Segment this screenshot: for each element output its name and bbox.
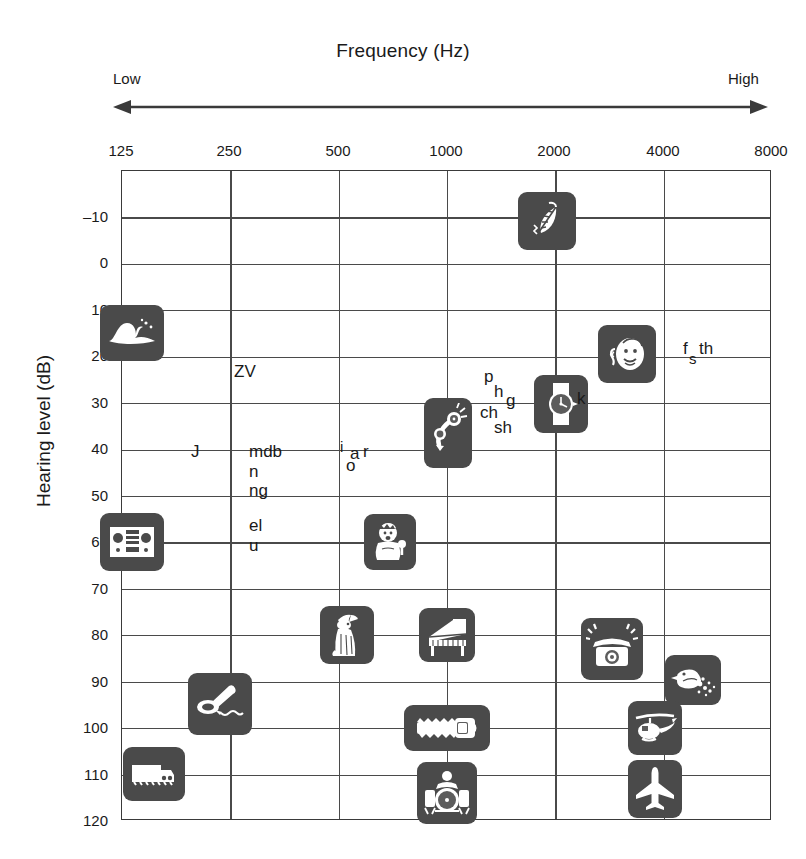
ytick-110: 110: [0, 766, 108, 783]
gridline-horizontal-60: [122, 542, 770, 543]
dog-icon: [320, 606, 374, 664]
phoneme-el-text: el: [249, 516, 262, 536]
audiogram-figure: Frequency (Hz) Low High 125 250 500 1000…: [0, 0, 806, 859]
xtick-250: 250: [216, 142, 241, 159]
phoneme-sh-text: sh: [494, 418, 512, 437]
phoneme-o-text: o: [346, 456, 355, 475]
phoneme-p: p: [484, 368, 493, 385]
gridline-horizontal-minus10: [122, 217, 770, 218]
chainsaw-icon: [404, 705, 490, 751]
gridline-horizontal-20: [122, 357, 770, 358]
phoneme-ng-text: ng: [249, 481, 282, 501]
power-saw-icon: [188, 673, 252, 735]
frequency-direction-arrow-icon: [113, 98, 768, 116]
xtick-4000: 4000: [646, 142, 679, 159]
ytick-80: 80: [0, 626, 108, 643]
ytick-100: 100: [0, 719, 108, 736]
hearing-level-axis-title: Hearing level (dB): [33, 231, 55, 631]
airplane-icon: [628, 760, 682, 818]
phone-ring-icon: [581, 618, 643, 680]
wave-icon: [100, 305, 164, 361]
phoneme-o: o: [346, 457, 355, 474]
ytick-120: 120: [0, 812, 108, 829]
phoneme-k: k: [577, 390, 586, 407]
telephone-bell-icon: [424, 398, 472, 468]
plot-area: ZV J mdb n ng el u i a r o p: [121, 170, 771, 820]
stereo-icon: [100, 513, 164, 571]
helicopter-icon: [628, 701, 682, 755]
ytick-0: 0: [0, 254, 108, 271]
ytick-40: 40: [0, 440, 108, 457]
gridline-horizontal-50: [122, 496, 770, 497]
high-frequency-label: High: [728, 70, 759, 87]
phoneme-th: th: [699, 340, 713, 357]
low-frequency-label: Low: [113, 70, 141, 87]
ytick-20: 20: [0, 347, 108, 364]
gridline-horizontal-0: [122, 264, 770, 265]
baby-icon: [364, 514, 416, 570]
drums-icon: [417, 762, 477, 824]
face-ear-icon: [598, 325, 656, 383]
gridline-horizontal-10: [122, 310, 770, 311]
xtick-2000: 2000: [537, 142, 570, 159]
phoneme-p-text: p: [484, 367, 493, 386]
phoneme-h-text: h: [494, 382, 503, 401]
phoneme-k-text: k: [577, 389, 586, 408]
gridline-horizontal-70: [122, 589, 770, 590]
frequency-axis-title: Frequency (Hz): [0, 40, 806, 62]
phoneme-i: i: [340, 439, 343, 454]
ytick-50: 50: [0, 487, 108, 504]
truck-icon: [123, 747, 185, 801]
phoneme-zv-text: ZV: [234, 362, 256, 381]
phoneme-column-low2: el u: [249, 516, 262, 555]
phoneme-sh: sh: [494, 419, 512, 436]
piano-icon: [419, 608, 475, 662]
ytick-70: 70: [0, 580, 108, 597]
xtick-1000: 1000: [429, 142, 462, 159]
ytick-10: 10: [0, 301, 108, 318]
phoneme-i-text: i: [340, 438, 343, 455]
phoneme-j: J: [191, 443, 200, 460]
phoneme-j-text: J: [191, 442, 200, 461]
gridline-vertical-2000: [555, 171, 556, 819]
phoneme-mdb-text: mdb: [249, 442, 282, 462]
phoneme-s-text: s: [689, 350, 697, 367]
ytick-minus10: –10: [0, 208, 108, 225]
leaf-icon: [518, 192, 576, 250]
xtick-8000: 8000: [754, 142, 787, 159]
ytick-60: 60: [0, 533, 108, 550]
ytick-30: 30: [0, 394, 108, 411]
phoneme-g-text: g: [506, 391, 515, 410]
phoneme-th-text: th: [699, 339, 713, 358]
phoneme-f: f: [683, 340, 688, 357]
bird-icon: [665, 655, 721, 705]
gridline-vertical-500: [339, 171, 340, 819]
phoneme-g: g: [506, 392, 515, 409]
phoneme-u-text: u: [249, 536, 262, 556]
phoneme-r: r: [363, 443, 369, 460]
phoneme-f-text: f: [683, 339, 688, 358]
phoneme-column-low: mdb n ng: [249, 442, 282, 501]
xtick-500: 500: [325, 142, 350, 159]
ytick-90: 90: [0, 673, 108, 690]
phoneme-h: h: [494, 383, 503, 400]
xtick-125: 125: [108, 142, 133, 159]
phoneme-s: s: [689, 351, 697, 366]
phoneme-zv: ZV: [234, 363, 256, 380]
phoneme-n-text: n: [249, 462, 282, 482]
phoneme-r-text: r: [363, 442, 369, 461]
